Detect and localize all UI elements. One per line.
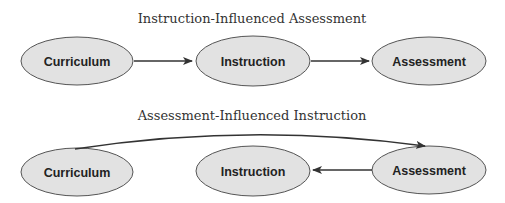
node-label: Instruction [221, 55, 286, 69]
node-label: Curriculum [44, 166, 111, 180]
node-curriculum: Curriculum [21, 37, 133, 85]
node-curriculum: Curriculum [21, 148, 133, 196]
diagram-instruction-influenced-assessment: Instruction-Influenced Assessment Curric… [21, 11, 486, 86]
node-instruction: Instruction [196, 36, 310, 86]
node-instruction: Instruction [196, 146, 310, 196]
node-assessment: Assessment [372, 37, 486, 85]
node-label: Assessment [392, 164, 466, 178]
diagram-assessment-influenced-instruction: Assessment-Influenced Instruction Curric… [21, 108, 486, 196]
node-assessment: Assessment [372, 146, 486, 194]
diagram-title: Assessment-Influenced Instruction [137, 108, 367, 123]
node-label: Curriculum [44, 55, 111, 69]
diagram-title: Instruction-Influenced Assessment [138, 11, 367, 26]
node-label: Assessment [392, 55, 466, 69]
diagram-canvas: Instruction-Influenced Assessment Curric… [0, 0, 505, 203]
node-label: Instruction [221, 165, 286, 179]
